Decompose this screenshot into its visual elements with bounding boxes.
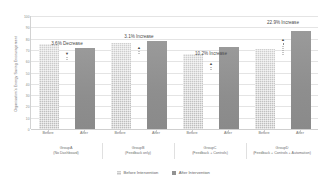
annotation-groupd: 22.9% Increase — [267, 20, 299, 25]
annotation-stem — [211, 67, 212, 70]
annotation-arrow-up: ▲ — [137, 46, 141, 50]
y-axis-tick-label: 70 — [26, 49, 30, 53]
legend-swatch-icon — [172, 171, 176, 175]
group-separator — [102, 143, 103, 159]
bar-groupb-before — [111, 43, 131, 129]
legend-item-before[interactable]: Before Intervention — [117, 170, 158, 175]
legend-item-after[interactable]: After Intervention — [172, 170, 210, 175]
y-axis-tick-label: 90 — [26, 26, 30, 30]
group-sublabel: (Feedback + Controls + Automation) — [253, 151, 311, 156]
legend-label: After Intervention — [179, 170, 210, 175]
y-axis-tick-label: 50 — [26, 72, 30, 76]
y-axis-tick-label: 100 — [24, 15, 30, 19]
y-axis-tick-label: 80 — [26, 38, 30, 42]
group-sublabel: (Feedback only) — [125, 151, 151, 156]
y-axis-title: Organisation's Energy Saving Encourageme… — [14, 14, 18, 134]
x-axis-tick-label-after: After — [296, 131, 304, 135]
bar-chart: Organisation's Energy Saving Encourageme… — [0, 0, 327, 190]
annotation-arrow-up: ▲ — [209, 62, 213, 66]
bar-groupc-before — [183, 54, 203, 129]
annotation-stem — [67, 57, 68, 60]
chart-legend: Before InterventionAfter Intervention — [0, 170, 327, 175]
plot-area: 1009080706050403020100 3.6% Decrease▼3.1… — [30, 16, 318, 129]
annotation-stem — [283, 43, 284, 55]
legend-label: Before Intervention — [124, 170, 159, 175]
x-axis-tick-label-before: Before — [43, 131, 54, 135]
bar-groupd-after — [291, 31, 311, 129]
x-axis-tick-label-after: After — [80, 131, 88, 135]
group-separator — [174, 143, 175, 159]
annotation-arrow-up: ▲ — [281, 38, 285, 42]
group-sublabel: (No Dashboard) — [53, 151, 79, 156]
bar-groupa-after — [75, 48, 95, 129]
group-label-groupd: GroupD(Feedback + Controls + Automation) — [253, 146, 311, 156]
y-axis-tick-label: 20 — [26, 105, 30, 109]
annotation-stem — [139, 51, 140, 54]
annotation-groupc: 10.2% Increase — [195, 51, 227, 56]
x-axis-tick-label-after: After — [224, 131, 232, 135]
x-axis-tick-label-before: Before — [187, 131, 198, 135]
bar-groupc-after — [219, 47, 239, 129]
y-axis-tick-label: 30 — [26, 94, 30, 98]
x-axis-tick-label-before: Before — [259, 131, 270, 135]
annotation-arrow-down: ▼ — [65, 52, 69, 56]
y-axis-tick-label: 60 — [26, 60, 30, 64]
group-separator — [246, 143, 247, 159]
bars-layer — [31, 16, 318, 129]
x-axis-group-labels: GroupA(No Dashboard)GroupB(Feedback only… — [30, 143, 318, 165]
bar-groupd-before — [255, 49, 275, 129]
group-label-groupb: GroupB(Feedback only) — [125, 146, 151, 156]
y-axis-tick-label: 40 — [26, 83, 30, 87]
x-axis-tick-label-after: After — [152, 131, 160, 135]
bar-groupa-before — [39, 44, 59, 129]
group-label-groupc: GroupC(Feedback + Controls) — [192, 146, 228, 156]
group-label-groupa: GroupA(No Dashboard) — [53, 146, 79, 156]
group-sublabel: (Feedback + Controls) — [192, 151, 228, 156]
bar-groupb-after — [147, 41, 167, 129]
annotation-groupb: 3.1% Increase — [124, 34, 153, 39]
x-axis-tick-label-before: Before — [115, 131, 126, 135]
annotation-groupa: 3.6% Decrease — [51, 41, 82, 46]
y-axis-tick-label: 10 — [26, 117, 30, 121]
legend-swatch-icon — [117, 171, 121, 175]
